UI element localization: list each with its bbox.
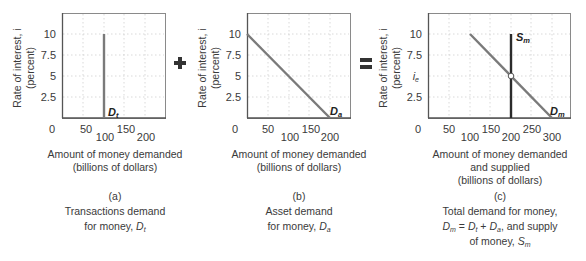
figure-canvas: Dt 10 7.5 5 2.5 0 50 100 150 200 Rate of… (0, 0, 586, 261)
x-tick-50: 50 (80, 123, 92, 135)
x-tick-200: 200 (137, 131, 155, 143)
y-tick-ie: ie (413, 70, 419, 83)
x-axis-label-c-line2: and supplied (470, 161, 530, 173)
svg-text:(percent): (percent) (24, 47, 36, 89)
svg-text:Rate of interest, i: Rate of interest, i (11, 28, 23, 107)
dm-curve-label: Dm (550, 105, 565, 119)
svg-text:100: 100 (281, 131, 299, 143)
svg-text:50: 50 (443, 123, 455, 135)
svg-text:200: 200 (502, 131, 520, 143)
panel-label-b: (b) (293, 190, 306, 202)
panel-b: Da 10 7.5 5 2.5 0 50 100 150 200 Rate of… (196, 13, 367, 233)
equals-operator-icon (360, 58, 372, 69)
panel-label-a: (a) (109, 190, 122, 202)
caption-c-line3: of money, Sm (469, 235, 530, 248)
y-axis-label-a: Rate of interest, i (percent) (11, 28, 36, 107)
x-axis-label-a-line2: (billions of dollars) (73, 161, 158, 173)
svg-text:200: 200 (321, 131, 339, 143)
x-tick-100: 100 (96, 131, 114, 143)
svg-text:150: 150 (482, 123, 500, 135)
x-ticks-c: 0 50 100 150 200 250 300 (415, 123, 561, 143)
x-tick-0: 0 (49, 123, 55, 135)
svg-text:7.5: 7.5 (407, 49, 422, 61)
x-tick-150: 150 (117, 123, 135, 135)
y-axis-label-b: Rate of interest, i (percent) (196, 28, 221, 107)
plus-operator-icon (174, 57, 186, 69)
x-axis-label-c-line3: (billions of dollars) (458, 174, 543, 186)
caption-a-line2: for money, Dt (84, 220, 146, 233)
svg-text:(percent): (percent) (390, 47, 402, 89)
x-axis-label-a-line1: Amount of money demanded (48, 148, 183, 160)
svg-text:150: 150 (302, 123, 320, 135)
y-tick-2-5: 2.5 (41, 91, 56, 103)
panel-c: Sm Dm 10 7.5 ie 2.5 0 50 100 150 200 250… (377, 13, 571, 248)
caption-b-line2: for money, Da (267, 220, 330, 233)
caption-a-line1: Transactions demand (65, 205, 166, 217)
y-tick-10: 10 (44, 28, 56, 40)
y-tick-5: 5 (50, 70, 56, 82)
equilibrium-point (508, 73, 514, 79)
panel-label-c: (c) (494, 190, 506, 202)
caption-b-line1: Asset demand (265, 205, 332, 217)
svg-text:5: 5 (235, 70, 241, 82)
svg-text:50: 50 (262, 123, 274, 135)
grid-b (248, 14, 349, 117)
plot-frame-c (429, 14, 571, 119)
svg-text:10: 10 (410, 28, 422, 40)
y-ticks-b: 10 7.5 5 2.5 (226, 28, 241, 103)
y-ticks-a: 10 7.5 5 2.5 (41, 28, 56, 103)
svg-text:0: 0 (232, 123, 238, 135)
svg-text:Rate of interest, i: Rate of interest, i (377, 28, 389, 107)
da-curve-label: Da (330, 105, 342, 119)
svg-text:(percent): (percent) (209, 47, 221, 89)
svg-text:2.5: 2.5 (407, 91, 422, 103)
svg-text:250: 250 (523, 123, 541, 135)
svg-text:100: 100 (461, 131, 479, 143)
dt-curve-label: Dt (108, 106, 119, 120)
y-tick-7-5: 7.5 (41, 49, 56, 61)
svg-text:7.5: 7.5 (226, 49, 241, 61)
svg-text:Rate of interest, i: Rate of interest, i (196, 28, 208, 107)
sm-curve-label: Sm (516, 31, 530, 45)
x-ticks-a: 0 50 100 150 200 (49, 123, 155, 143)
svg-text:300: 300 (543, 131, 561, 143)
svg-text:2.5: 2.5 (226, 91, 241, 103)
panel-a: Dt 10 7.5 5 2.5 0 50 100 150 200 Rate of… (11, 13, 183, 233)
y-ticks-c: 10 7.5 ie 2.5 (407, 28, 422, 103)
x-axis-label-b-line1: Amount of money demanded (232, 148, 367, 160)
plot-frame-b (248, 14, 351, 119)
caption-c-line1: Total demand for money, (443, 205, 558, 217)
da-curve (247, 34, 330, 118)
y-axis-label-c: Rate of interest, i (percent) (377, 28, 402, 107)
caption-c-line2: Dm = Dt + Da, and supply (442, 220, 558, 233)
grid-a (63, 14, 164, 117)
x-ticks-b: 0 50 100 150 200 (232, 123, 339, 143)
x-axis-label-b-line2: (billions of dollars) (257, 161, 342, 173)
plot-frame-a (63, 14, 166, 119)
svg-text:10: 10 (229, 28, 241, 40)
svg-text:0: 0 (415, 123, 421, 135)
x-axis-label-c-line1: Amount of money demanded (433, 148, 568, 160)
